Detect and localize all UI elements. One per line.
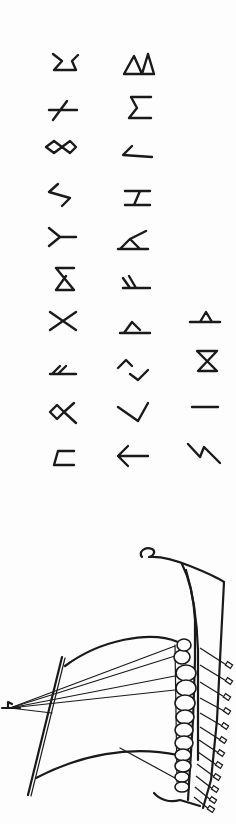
rune-glyph-icon — [122, 50, 156, 76]
rune-glyph-icon — [48, 401, 78, 425]
rune-glyph-icon — [48, 360, 78, 380]
oar-row — [194, 648, 233, 812]
rune-glyph-icon — [45, 137, 79, 159]
rune-glyph-icon — [122, 186, 152, 210]
rune-glyph-icon — [116, 401, 152, 425]
page-canvas: Runic alphabet with Viking ship illustra… — [0, 0, 236, 824]
rune-glyph-icon — [118, 314, 152, 336]
rune-glyph-icon — [188, 306, 222, 326]
rune-glyph-icon — [48, 310, 78, 332]
shield-row — [174, 639, 196, 792]
rune-glyph-icon — [120, 272, 152, 292]
rune-glyph-icon — [125, 94, 153, 122]
rune-glyph-icon — [116, 356, 152, 382]
rune-glyph-icon — [50, 447, 78, 469]
rune-glyph-icon — [186, 441, 222, 467]
rune-glyph-icon — [46, 225, 78, 249]
viking-ship-illustration — [0, 540, 236, 824]
rune-glyph-icon — [46, 182, 76, 208]
rune-glyph-icon — [190, 402, 220, 412]
rune-glyph-icon — [52, 266, 78, 292]
rune-glyph-icon — [114, 443, 150, 469]
rune-glyph-icon — [194, 348, 220, 374]
rune-glyph-icon — [120, 143, 154, 163]
rune-glyph-icon — [50, 52, 80, 76]
rune-glyph-icon — [116, 229, 150, 251]
rune-glyph-icon — [47, 98, 79, 122]
